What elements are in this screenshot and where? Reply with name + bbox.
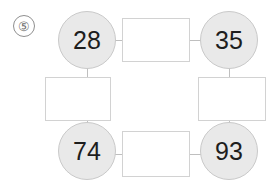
- answer-box-top[interactable]: [122, 18, 190, 62]
- puzzle-worksheet-page: ⑤ 28 35 74 93: [0, 0, 277, 190]
- answer-box-left[interactable]: [45, 77, 111, 121]
- node-value-bottom-right: 93: [215, 139, 243, 164]
- answer-box-bottom[interactable]: [122, 131, 190, 177]
- node-circle-top-left: 28: [58, 11, 116, 69]
- answer-box-right[interactable]: [198, 77, 266, 121]
- node-value-top-right: 35: [215, 28, 243, 53]
- problem-number-marker: ⑤: [13, 15, 35, 37]
- node-circle-bottom-left: 74: [58, 122, 116, 180]
- node-value-bottom-left: 74: [73, 139, 101, 164]
- node-circle-top-right: 35: [200, 11, 258, 69]
- node-circle-bottom-right: 93: [200, 122, 258, 180]
- node-value-top-left: 28: [73, 28, 101, 53]
